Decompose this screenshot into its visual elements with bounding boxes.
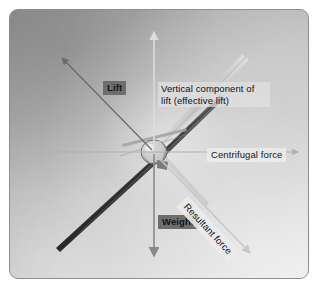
force-vectors [10,10,309,279]
label-lift: Lift [103,81,126,95]
vector-lift [62,58,152,150]
label-vertical-component: Vertical component of lift (effective li… [158,82,270,107]
photo-panel: Lift Vertical component of lift (effecti… [9,9,309,279]
vector-resultant [157,156,250,253]
label-centrifugal-force: Centrifugal force [207,148,286,162]
figure-root: Lift Vertical component of lift (effecti… [0,0,318,289]
